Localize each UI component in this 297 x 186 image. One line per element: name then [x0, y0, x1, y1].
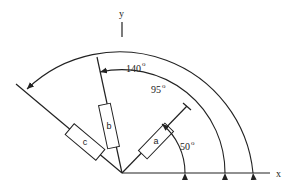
angle-label-50: 50	[180, 141, 190, 152]
angle-label-95-degree: o	[162, 82, 166, 90]
angle-label-140: 140	[126, 63, 141, 74]
component-c-label: c	[83, 137, 88, 147]
angle-diagram: x y a b c 50 o 95 o 140 o	[0, 0, 297, 186]
angle-label-95: 95	[151, 84, 161, 95]
angle-label-50-degree: o	[191, 139, 195, 147]
y-axis-label: y	[119, 8, 124, 19]
component-a-label: a	[153, 136, 158, 146]
component-b-label: b	[106, 121, 111, 131]
branch-a: a	[122, 103, 191, 173]
x-axis-label: x	[276, 168, 281, 179]
angle-label-140-degree: o	[142, 60, 146, 68]
